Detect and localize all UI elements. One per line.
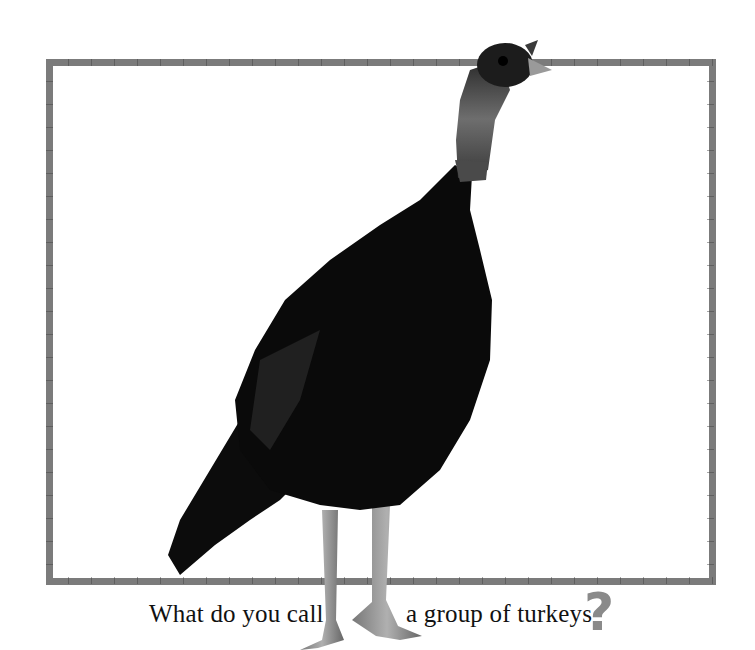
question-mark-icon: ? [584, 586, 614, 638]
turkey-image [0, 0, 755, 650]
caption-part-1: What do you call [149, 600, 324, 628]
caption-part-2: a group of turkeys [406, 600, 592, 628]
